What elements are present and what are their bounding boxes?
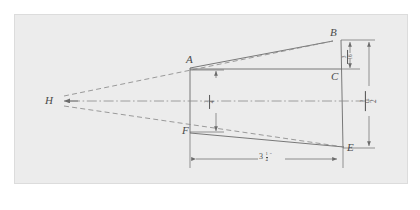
point-label-B: B — [330, 27, 337, 38]
overall-length-whole: 3 — [259, 153, 263, 161]
front-height-denominator: 4 — [211, 95, 216, 109]
figure-canvas: H A B C E F 3 16 1 4 3 16 2 3 1 4 ″ — [0, 0, 420, 210]
ray-H-F-E — [64, 106, 344, 147]
overall-length-value: 3 1 4 ″ — [259, 152, 272, 163]
edge-A-B — [190, 41, 333, 68]
ray-H-A-B — [64, 41, 333, 96]
dimension-rear-height: 3 16 2 — [360, 91, 378, 111]
edge-F-E — [190, 133, 344, 147]
point-label-C: C — [331, 71, 338, 82]
rear-height-whole: 2 — [370, 91, 378, 111]
overall-length-denominator: 4 — [266, 158, 268, 163]
overall-length-fraction: 1 4 — [266, 152, 268, 163]
dimension-overall-length: 3 1 4 ″ — [259, 152, 272, 163]
dimension-front-height: 1 4 — [204, 95, 216, 109]
taper-offset-denominator: 16 — [349, 50, 354, 64]
point-label-F: F — [182, 125, 189, 136]
overall-length-unit: ″ — [270, 152, 272, 157]
dimension-taper-offset: 3 16 — [342, 50, 354, 64]
point-label-H: H — [45, 95, 53, 106]
point-label-E: E — [347, 142, 354, 153]
point-label-A: A — [186, 54, 193, 65]
